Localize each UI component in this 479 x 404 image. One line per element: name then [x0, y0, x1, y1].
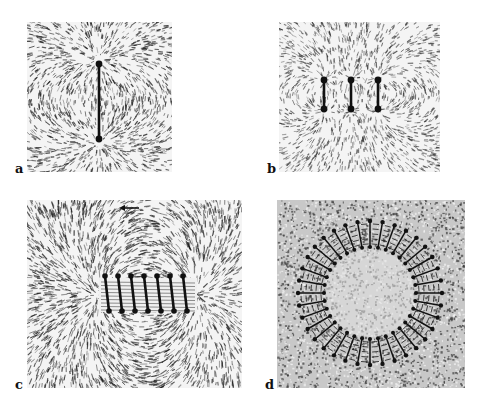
panel-a-single-wire [27, 22, 172, 172]
field-pattern-b [279, 22, 440, 172]
panel-label-a: a [15, 162, 23, 175]
field-pattern-c [27, 200, 242, 388]
panel-label-c: c [15, 378, 23, 391]
panel-label-d: d [265, 378, 274, 391]
field-pattern-a [27, 22, 172, 172]
panel-label-b: b [267, 162, 276, 175]
panel-b-three-wires [279, 22, 440, 172]
panel-c-solenoid [27, 200, 242, 388]
panel-d-toroid [277, 200, 465, 388]
field-pattern-d [277, 200, 465, 388]
